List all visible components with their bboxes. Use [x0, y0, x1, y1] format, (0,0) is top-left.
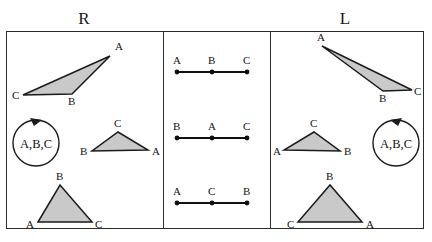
- l-triangle-1-group: A B C: [317, 31, 421, 104]
- m-segment-2-label-right: C: [243, 120, 250, 132]
- r-triangle-2-label-a: A: [152, 145, 160, 157]
- l-triangle-3-label-b: B: [326, 170, 333, 182]
- m-segment-2-label-left: B: [173, 120, 180, 132]
- l-triangle-2-group: A B C: [273, 117, 351, 157]
- m-segment-1-label-right: C: [243, 54, 250, 66]
- m-segment-1-label-middle: B: [208, 54, 215, 66]
- r-triangle-1-shape: [23, 56, 110, 95]
- m-segment-1-label-left: A: [173, 54, 181, 66]
- l-triangle-2-shape: [284, 132, 340, 151]
- m-segment-2-label-middle: A: [208, 120, 216, 132]
- orientation-marker-right: A,B,C: [13, 118, 59, 166]
- l-triangle-1-shape: [322, 46, 412, 91]
- orientation-arrowhead-left-cw: [390, 118, 402, 126]
- r-triangle-2-group: A B C: [80, 117, 160, 157]
- r-triangle-3-group: A B C: [26, 170, 102, 230]
- orientation-label-left: A,B,C: [380, 137, 412, 151]
- m-segment-3-label-right: B: [243, 185, 250, 197]
- m-segment-3-dot-left: [175, 201, 180, 206]
- l-triangle-3-label-a: A: [366, 218, 374, 230]
- m-segment-1-dot-middle: [210, 70, 215, 75]
- orientation-label-right: A,B,C: [20, 137, 52, 151]
- l-triangle-1-label-c: C: [414, 85, 421, 97]
- geometry-drawing-layer: A B C A B C A B C A,B,C A: [0, 0, 432, 242]
- r-triangle-3-label-c: C: [95, 218, 102, 230]
- m-segment-2-dot-left: [175, 136, 180, 141]
- orientation-marker-left: A,B,C: [373, 118, 419, 166]
- m-segment-3-dot-middle: [210, 201, 215, 206]
- l-triangle-3-label-c: C: [287, 218, 294, 230]
- l-triangle-2-label-b: B: [344, 145, 351, 157]
- r-triangle-1-label-b: B: [68, 95, 75, 107]
- l-triangle-2-label-c: C: [310, 117, 317, 129]
- r-triangle-3-label-b: B: [56, 170, 63, 182]
- m-segment-1-group: A B C: [173, 54, 250, 74]
- l-triangle-2-label-a: A: [273, 145, 281, 157]
- m-segment-2-group: B A C: [173, 120, 250, 140]
- r-triangle-2-shape: [92, 132, 148, 151]
- orientation-arrowhead-right-ccw: [30, 118, 42, 126]
- r-triangle-1-group: A B C: [12, 40, 123, 107]
- m-segment-3-label-left: A: [173, 185, 181, 197]
- l-triangle-1-label-b: B: [379, 92, 386, 104]
- r-triangle-1-label-c: C: [12, 89, 19, 101]
- m-segment-3-label-middle: C: [208, 185, 215, 197]
- l-triangle-1-label-a: A: [317, 31, 325, 43]
- m-segment-1-dot-right: [245, 70, 250, 75]
- m-segment-2-dot-middle: [210, 136, 215, 141]
- r-triangle-2-label-c: C: [114, 117, 121, 129]
- m-segment-1-dot-left: [175, 70, 180, 75]
- l-triangle-3-shape: [298, 185, 362, 222]
- r-triangle-1-label-a: A: [115, 40, 123, 52]
- r-triangle-3-label-a: A: [26, 218, 34, 230]
- l-triangle-3-group: A B C: [287, 170, 374, 230]
- figure-root: R L A B C A B C A B C A,B,C: [0, 0, 432, 242]
- m-segment-3-group: A C B: [173, 185, 250, 205]
- m-segment-3-dot-right: [245, 201, 250, 206]
- m-segment-2-dot-right: [245, 136, 250, 141]
- r-triangle-3-shape: [38, 185, 92, 222]
- r-triangle-2-label-b: B: [80, 145, 87, 157]
